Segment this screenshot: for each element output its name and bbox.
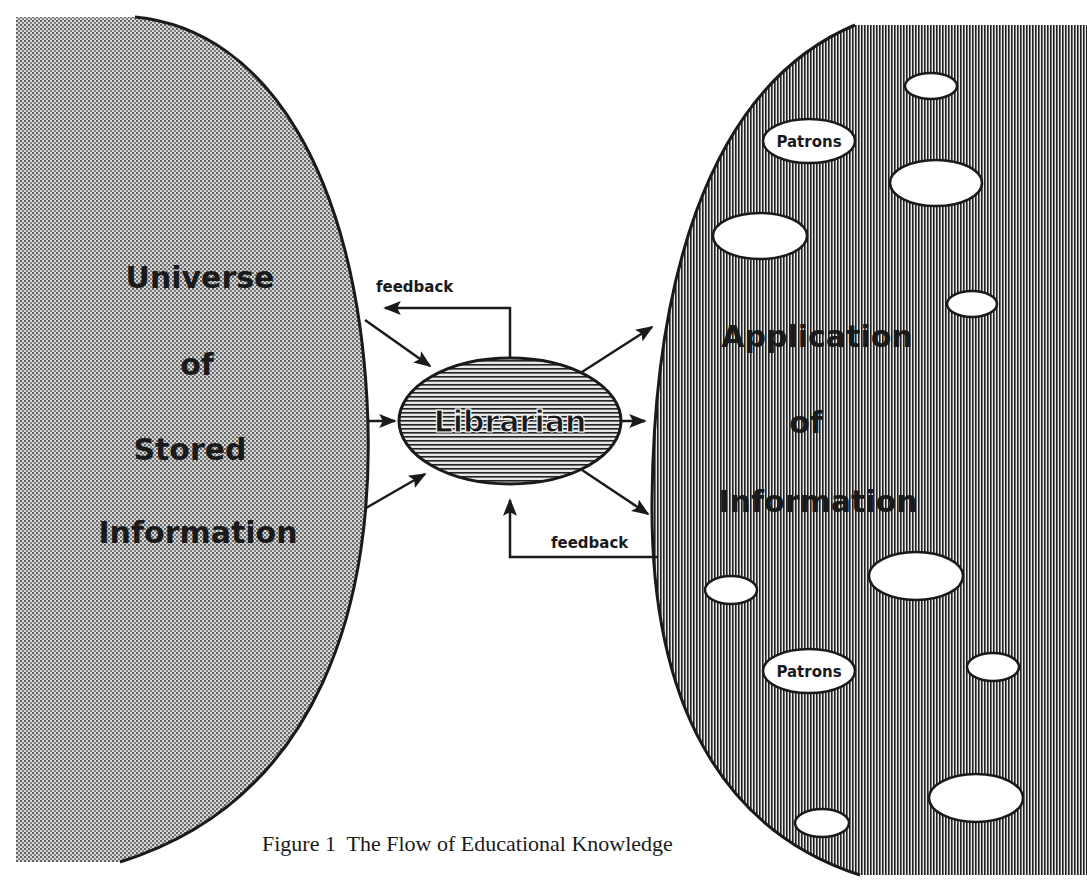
librarian-label: Librarian	[434, 404, 587, 439]
feedback-label-bottom: feedback	[551, 534, 629, 552]
patron-ellipse	[795, 809, 849, 837]
patron-ellipse	[705, 576, 757, 604]
patron-label-top: Patrons	[776, 133, 841, 151]
patron-ellipse	[947, 291, 997, 317]
patron-ellipse	[869, 552, 963, 600]
arrow-out-bottom	[582, 470, 648, 514]
left-region-line-2: of	[180, 347, 215, 382]
arrow-in-top	[365, 320, 430, 366]
patron-label-bottom: Patrons	[776, 663, 841, 681]
figure-caption: Figure 1 The Flow of Educational Knowled…	[262, 831, 673, 856]
left-region-line-3: Stored	[133, 432, 246, 467]
feedback-loop-top	[385, 308, 510, 358]
patron-ellipse	[890, 160, 982, 206]
arrow-in-bottom	[366, 474, 425, 508]
arrow-out-top	[582, 327, 652, 372]
left-region-line-4: Information	[98, 515, 297, 550]
right-region-line-2: of	[789, 405, 824, 440]
feedback-label-top: feedback	[376, 278, 454, 296]
patron-ellipse	[967, 653, 1019, 681]
patron-ellipse	[713, 213, 807, 259]
right-region-application	[652, 25, 1087, 875]
flow-diagram: Universe of Stored Information Applicati…	[0, 0, 1087, 880]
right-region-line-3: Information	[718, 484, 917, 519]
patron-ellipse	[905, 73, 957, 99]
patron-ellipse	[929, 774, 1023, 822]
right-region-line-1: Application	[721, 319, 912, 354]
left-region-line-1: Universe	[126, 260, 275, 295]
